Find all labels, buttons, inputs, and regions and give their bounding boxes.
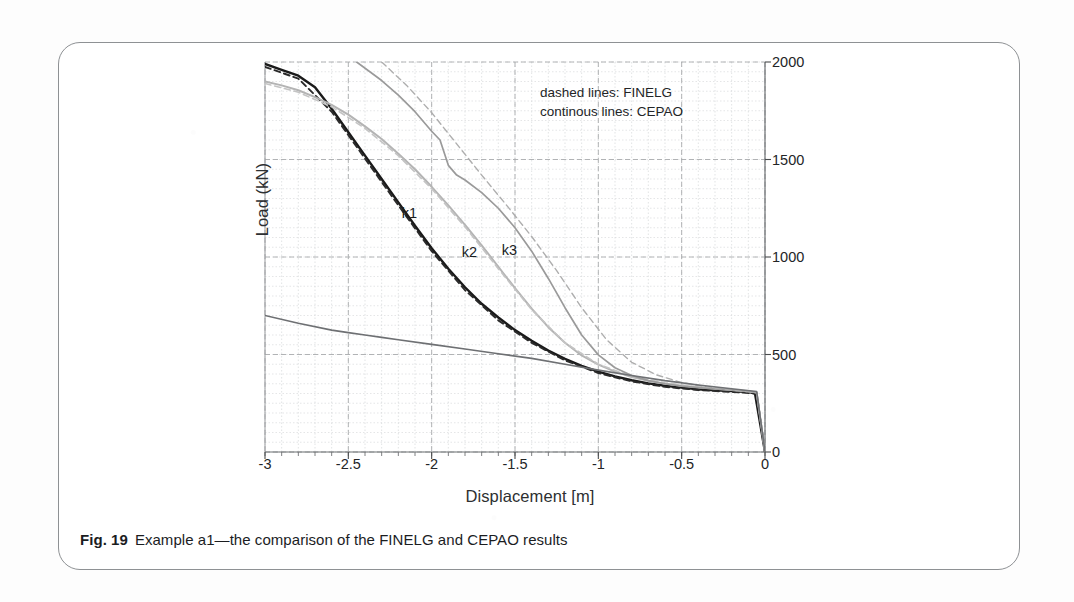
legend-note: dashed lines: FINELG continous lines: CE… xyxy=(540,83,683,121)
y-tick-label: 0 xyxy=(772,444,780,460)
x-tick-label: -0.5 xyxy=(669,456,694,472)
x-tick-label: -1.5 xyxy=(503,456,528,472)
x-axis-title: Displacement [m] xyxy=(330,487,730,506)
figure-number: Fig. 19 xyxy=(80,531,128,548)
x-tick-label: -3 xyxy=(259,456,272,472)
x-tick-label: 0 xyxy=(761,456,769,472)
y-axis-title: Load (kN) xyxy=(253,120,272,280)
x-tick-label: -1 xyxy=(592,456,605,472)
curve-label-k2: k2 xyxy=(462,244,477,260)
y-tick-label: 2000 xyxy=(772,54,804,70)
legend-line-dashed: dashed lines: FINELG xyxy=(540,83,683,102)
y-tick-label: 1500 xyxy=(772,152,804,168)
x-tick-label: -2 xyxy=(425,456,438,472)
y-tick-label: 1000 xyxy=(772,249,804,265)
y-tick-marks xyxy=(765,62,771,452)
curve-label-k1: k1 xyxy=(402,205,417,221)
chart-plot xyxy=(0,0,1074,602)
curve-label-k3: k3 xyxy=(502,242,517,258)
chart-container: Load (kN) Displacement [m] -3-2.5-2-1.5-… xyxy=(0,0,1074,602)
figure-caption: Fig. 19Example a1—the comparison of the … xyxy=(80,531,568,548)
legend-line-continuous: continous lines: CEPAO xyxy=(540,102,683,121)
figure-caption-text: Example a1—the comparison of the FINELG … xyxy=(135,531,568,548)
y-tick-label: 500 xyxy=(772,347,796,363)
x-tick-label: -2.5 xyxy=(336,456,361,472)
